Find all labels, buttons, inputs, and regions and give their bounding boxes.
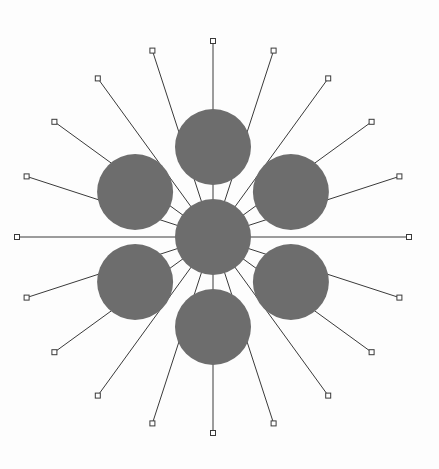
spoke-endpoint-handle[interactable] bbox=[150, 48, 155, 53]
spoke-endpoint-handle[interactable] bbox=[95, 76, 100, 81]
spoke-endpoint-handle[interactable] bbox=[52, 119, 57, 124]
satellite-node-bottom[interactable] bbox=[175, 289, 251, 365]
radial-diagram bbox=[0, 0, 439, 469]
satellite-node-upper-right[interactable] bbox=[253, 154, 329, 230]
satellite-node-upper-left[interactable] bbox=[97, 154, 173, 230]
spoke-endpoint-handle[interactable] bbox=[397, 295, 402, 300]
spoke-endpoint-handle[interactable] bbox=[211, 431, 216, 436]
spoke-endpoint-handle[interactable] bbox=[150, 421, 155, 426]
spoke-endpoint-handle[interactable] bbox=[24, 174, 29, 179]
satellite-node-lower-right[interactable] bbox=[253, 244, 329, 320]
spoke-endpoint-handle[interactable] bbox=[52, 350, 57, 355]
spoke-endpoint-handle[interactable] bbox=[95, 393, 100, 398]
spoke-endpoint-handle[interactable] bbox=[271, 48, 276, 53]
spoke-endpoint-handle[interactable] bbox=[24, 295, 29, 300]
spoke-endpoint-handle[interactable] bbox=[369, 350, 374, 355]
satellite-node-lower-left[interactable] bbox=[97, 244, 173, 320]
spoke-endpoint-handle[interactable] bbox=[271, 421, 276, 426]
spoke-endpoint-handle[interactable] bbox=[211, 39, 216, 44]
spoke-endpoint-handle[interactable] bbox=[369, 119, 374, 124]
spoke-endpoint-handle[interactable] bbox=[326, 76, 331, 81]
hub-node[interactable] bbox=[175, 199, 251, 275]
spoke-endpoint-handle[interactable] bbox=[397, 174, 402, 179]
spoke-endpoint-handle[interactable] bbox=[15, 235, 20, 240]
diagram-canvas bbox=[0, 0, 439, 469]
spoke-endpoint-handle[interactable] bbox=[407, 235, 412, 240]
satellite-node-top[interactable] bbox=[175, 109, 251, 185]
spoke-endpoint-handle[interactable] bbox=[326, 393, 331, 398]
